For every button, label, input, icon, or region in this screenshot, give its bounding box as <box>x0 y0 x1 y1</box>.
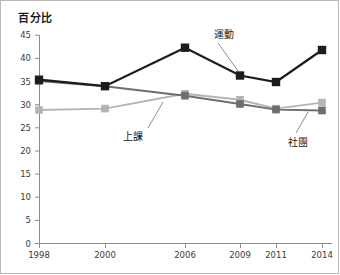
x-tick-label-2006: 2006 <box>174 250 196 260</box>
x-tick-label-2000: 2000 <box>94 250 116 260</box>
annotation-label-class: 上課 <box>123 130 143 142</box>
series-class-marker <box>272 106 280 114</box>
series-class-marker <box>318 107 326 115</box>
y-tick-label-5: 5 <box>26 215 31 225</box>
leader-line-club <box>296 112 308 133</box>
y-tick-label-15: 15 <box>20 169 31 179</box>
series-exercise-marker <box>272 78 280 86</box>
annotation-label-club: 社團 <box>288 136 308 148</box>
series-exercise-marker <box>181 44 189 52</box>
y-tick-label-45: 45 <box>20 30 31 40</box>
y-tick-label-20: 20 <box>20 146 31 156</box>
y-tick-label-40: 40 <box>20 53 31 63</box>
series-club-marker <box>35 106 43 114</box>
x-tick-label-1998: 1998 <box>28 250 50 260</box>
series-class-marker <box>236 100 244 108</box>
series-exercise-marker <box>101 82 109 90</box>
y-tick-label-25: 25 <box>20 123 31 133</box>
y-tick-label-30: 30 <box>20 100 31 110</box>
series-club-marker <box>101 105 109 113</box>
y-tick-label-10: 10 <box>20 192 31 202</box>
line-chart-plot: 0 5 10 15 20 25 30 35 40 45 1998 2000 20… <box>0 0 340 275</box>
series-exercise-marker <box>318 46 326 54</box>
series-club-marker <box>318 99 326 107</box>
x-tick-label-2009: 2009 <box>229 250 251 260</box>
series-exercise-marker <box>236 71 244 79</box>
y-tick-group: 0 5 10 15 20 25 30 35 40 45 <box>20 30 39 248</box>
y-tick-label-0: 0 <box>26 239 31 249</box>
series-exercise-marker <box>35 76 43 84</box>
annotation-label-exercise: 運動 <box>214 28 234 40</box>
y-tick-label-35: 35 <box>20 77 31 87</box>
chart-container: 百分比 0 5 10 15 20 25 30 35 40 <box>0 0 340 275</box>
x-tick-group: 1998 2000 2006 2009 2011 2014 <box>28 244 333 261</box>
series-class-marker <box>181 92 189 100</box>
leader-line-class <box>148 102 163 128</box>
x-tick-label-2014: 2014 <box>311 250 333 260</box>
series-exercise <box>35 44 326 91</box>
x-tick-label-2011: 2011 <box>265 250 287 260</box>
annotation-labels: 運動 上課 社團 <box>123 28 308 148</box>
annotation-leaders <box>148 43 308 133</box>
